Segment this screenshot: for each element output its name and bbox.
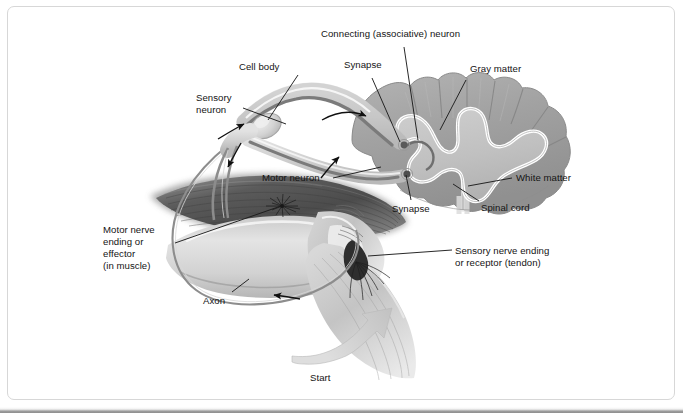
label-sensory-neuron-line2: neuron [196, 104, 226, 116]
label-axon: Axon [203, 295, 225, 307]
synapse-dorsal-dot [401, 142, 408, 149]
label-gray-matter: Gray matter [470, 63, 521, 75]
label-motor-ending-line4: (in muscle) [103, 260, 150, 272]
label-connecting-neuron: Connecting (associative) neuron [321, 28, 460, 40]
label-motor-ending-line1: Motor nerve [103, 224, 155, 236]
synapse-ventral-dot [403, 170, 410, 177]
label-motor-ending-line3: effector [103, 248, 135, 260]
label-synapse-top: Synapse [344, 59, 382, 71]
label-sensory-ending-line1: Sensory nerve ending [455, 245, 549, 257]
label-spinal-cord: Spinal cord [481, 202, 530, 214]
label-sensory-ending-line2: or receptor (tendon) [455, 257, 541, 269]
label-motor-ending-line2: ending or [103, 236, 143, 248]
spinal-cord-cross-section [352, 73, 570, 214]
label-synapse-bottom: Synapse [392, 203, 430, 215]
label-start: Start [310, 372, 331, 384]
label-cell-body: Cell body [239, 61, 279, 73]
label-white-matter: White matter [516, 172, 571, 184]
label-sensory-neuron-line1: Sensory [196, 92, 232, 104]
bottom-shadow-band [0, 407, 683, 413]
reflex-arc-illustration [0, 0, 683, 413]
reflex-arc-figure: Connecting (associative) neuron Synapse … [0, 0, 683, 413]
label-motor-neuron: Motor neuron [262, 172, 320, 184]
